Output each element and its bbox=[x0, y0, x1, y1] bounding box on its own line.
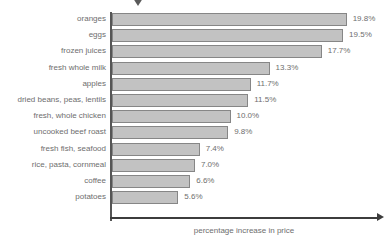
bar-value-label: 7.0% bbox=[201, 158, 219, 171]
down-triangle-marker bbox=[131, 0, 145, 6]
bar-value-label: 7.4% bbox=[206, 142, 224, 155]
bar-chart-plot-area: oranges19.8%eggs19.5%frozen juices17.7%f… bbox=[0, 10, 392, 220]
bar bbox=[112, 110, 231, 123]
x-axis-arrow-icon bbox=[377, 213, 384, 221]
category-label: uncooked beef roast bbox=[0, 125, 106, 138]
bar-value-label: 19.8% bbox=[353, 12, 376, 25]
x-axis-line bbox=[110, 217, 378, 219]
category-label: potatoes bbox=[0, 190, 106, 203]
bar bbox=[112, 62, 270, 75]
bar-row: coffee6.6% bbox=[0, 175, 392, 188]
bar bbox=[112, 94, 248, 107]
bar-row: oranges19.8% bbox=[0, 13, 392, 26]
bar-row: uncooked beef roast9.8% bbox=[0, 126, 392, 139]
bar-value-label: 9.8% bbox=[234, 125, 252, 138]
category-label: oranges bbox=[0, 12, 106, 25]
bar-value-label: 17.7% bbox=[328, 44, 351, 57]
bar-row: eggs19.5% bbox=[0, 29, 392, 42]
bar-value-label: 6.6% bbox=[196, 174, 214, 187]
bar-value-label: 10.0% bbox=[237, 109, 260, 122]
bar-row: apples11.7% bbox=[0, 78, 392, 91]
category-label: eggs bbox=[0, 28, 106, 41]
bar-row: rice, pasta, cornmeal7.0% bbox=[0, 159, 392, 172]
bar bbox=[112, 143, 200, 156]
bar-row: fresh, whole chicken10.0% bbox=[0, 110, 392, 123]
bar bbox=[112, 191, 178, 204]
category-label: frozen juices bbox=[0, 44, 106, 57]
bar bbox=[112, 45, 322, 58]
category-label: coffee bbox=[0, 174, 106, 187]
bar bbox=[112, 78, 251, 91]
category-label: dried beans, peas, lentils bbox=[0, 93, 106, 106]
x-axis-title: percentage increase in price bbox=[110, 226, 378, 235]
category-label: fresh whole milk bbox=[0, 61, 106, 74]
bar bbox=[112, 13, 347, 26]
bar-row: potatoes5.6% bbox=[0, 191, 392, 204]
bar bbox=[112, 29, 343, 42]
bar-value-label: 5.6% bbox=[184, 190, 202, 203]
bar-row: fresh fish, seafood7.4% bbox=[0, 143, 392, 156]
bar-row: dried beans, peas, lentils11.5% bbox=[0, 94, 392, 107]
bar bbox=[112, 126, 228, 139]
bar bbox=[112, 175, 190, 188]
chart-page: oranges19.8%eggs19.5%frozen juices17.7%f… bbox=[0, 0, 392, 244]
category-label: fresh fish, seafood bbox=[0, 142, 106, 155]
bar-value-label: 11.7% bbox=[257, 77, 279, 90]
bar-value-label: 13.3% bbox=[276, 61, 299, 74]
category-label: rice, pasta, cornmeal bbox=[0, 158, 106, 171]
bar-value-label: 11.5% bbox=[254, 93, 276, 106]
bar-row: frozen juices17.7% bbox=[0, 45, 392, 58]
bar-value-label: 19.5% bbox=[349, 28, 372, 41]
category-label: fresh, whole chicken bbox=[0, 109, 106, 122]
category-label: apples bbox=[0, 77, 106, 90]
bar bbox=[112, 159, 195, 172]
bar-row: fresh whole milk13.3% bbox=[0, 62, 392, 75]
